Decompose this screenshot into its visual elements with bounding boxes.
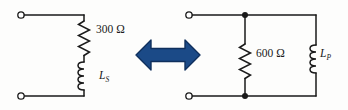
top-junction-node-dot <box>242 12 248 18</box>
inductor-ls-label: LS <box>99 70 109 84</box>
circuit-equivalence-figure: 300 Ω LS 600 Ω LP <box>0 0 348 110</box>
inductor-lp-label: LP <box>320 48 331 62</box>
arrow-shape <box>136 40 200 70</box>
inductor-ls-symbol <box>78 62 84 90</box>
resistor-300-ohm-label: 300 Ω <box>96 24 125 36</box>
inductor-lp-symbol <box>310 45 316 73</box>
bottom-junction-node-dot <box>242 93 248 99</box>
inductor-ls-subscript: S <box>105 75 109 84</box>
resistor-600-ohm-label: 600 Ω <box>256 48 285 60</box>
right-bottom-open-terminal-icon <box>186 93 192 99</box>
right-top-open-terminal-icon <box>186 12 192 18</box>
left-top-open-terminal-icon <box>18 12 24 18</box>
resistor-300-ohm-symbol <box>79 21 90 56</box>
resistor-600-ohm-symbol <box>240 44 251 79</box>
double-headed-arrow-icon <box>136 40 200 70</box>
inductor-lp-subscript: P <box>326 53 331 62</box>
left-bottom-open-terminal-icon <box>18 93 24 99</box>
series-rl-circuit <box>18 12 90 99</box>
circuit-schematic-svg <box>0 0 348 110</box>
parallel-rl-circuit <box>186 12 316 99</box>
